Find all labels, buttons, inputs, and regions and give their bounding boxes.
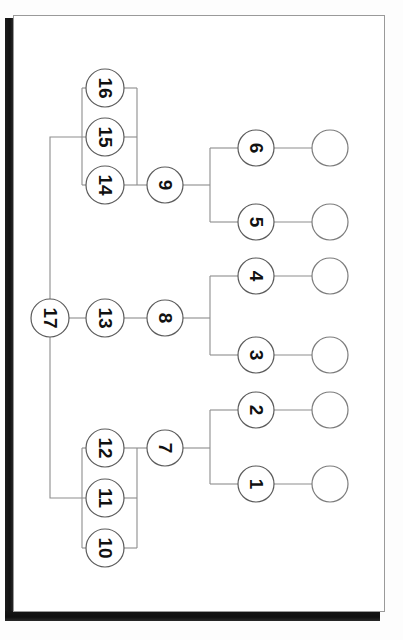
node-label: 7 <box>155 443 176 454</box>
node-label: 11 <box>95 488 116 509</box>
leaf-node-circle[interactable] <box>312 337 348 373</box>
node-label: 8 <box>155 313 176 324</box>
node-label: 15 <box>95 126 116 148</box>
node-label: 4 <box>246 271 267 282</box>
tree-diagram: 1234567891011121314151617 <box>0 0 403 640</box>
tree-node-1[interactable]: 1 <box>238 466 274 502</box>
tree-node-11[interactable]: 11 <box>86 479 124 517</box>
tree-edge <box>50 337 86 498</box>
node-label: 9 <box>155 180 176 191</box>
tree-node-2[interactable]: 2 <box>238 392 274 428</box>
tree-node-6[interactable]: 6 <box>238 130 274 166</box>
node-label: 16 <box>95 77 116 98</box>
internal-nodes-layer: 1234567891011121314151617 <box>31 69 274 567</box>
node-label: 6 <box>246 143 267 154</box>
tree-node-3[interactable]: 3 <box>238 337 274 373</box>
node-label: 3 <box>246 350 267 361</box>
node-label: 14 <box>95 174 116 196</box>
node-label: 13 <box>95 307 116 328</box>
leaf-node-circle[interactable] <box>312 204 348 240</box>
tree-node-13[interactable]: 13 <box>86 299 124 337</box>
node-label: 10 <box>95 537 116 558</box>
tree-node-5[interactable]: 5 <box>238 204 274 240</box>
tree-node-8[interactable]: 8 <box>147 300 183 336</box>
node-label: 12 <box>95 437 116 458</box>
node-label: 17 <box>40 307 61 328</box>
node-label: 2 <box>246 405 267 416</box>
screenshot-canvas: 1234567891011121314151617 <box>0 0 403 640</box>
tree-node-17[interactable]: 17 <box>31 299 69 337</box>
tree-node-9[interactable]: 9 <box>147 167 183 203</box>
leaf-node-circle[interactable] <box>312 392 348 428</box>
tree-node-16[interactable]: 16 <box>86 69 124 107</box>
tree-node-14[interactable]: 14 <box>86 166 124 204</box>
tree-edge <box>50 137 86 299</box>
tree-node-4[interactable]: 4 <box>238 258 274 294</box>
leaf-node-circle[interactable] <box>312 130 348 166</box>
tree-node-7[interactable]: 7 <box>147 430 183 466</box>
tree-node-10[interactable]: 10 <box>86 529 124 567</box>
leaf-nodes-layer <box>312 130 348 502</box>
leaf-node-circle[interactable] <box>312 466 348 502</box>
leaf-node-circle[interactable] <box>312 258 348 294</box>
tree-node-12[interactable]: 12 <box>86 429 124 467</box>
tree-node-15[interactable]: 15 <box>86 118 124 156</box>
node-label: 5 <box>246 217 267 228</box>
node-label: 1 <box>246 479 267 490</box>
